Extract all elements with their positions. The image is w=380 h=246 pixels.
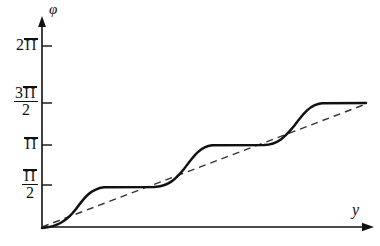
tick-label-pi: II — [0, 136, 38, 152]
x-axis — [42, 223, 374, 231]
fraction-numerator: II — [22, 168, 38, 185]
chart-canvas — [0, 0, 380, 246]
fraction-denominator: 2 — [14, 102, 38, 118]
tick-label-2pi-text: 2II — [16, 36, 38, 53]
pi-barred-glyph: II — [24, 37, 38, 53]
y-axis — [38, 16, 46, 229]
x-axis-label: y — [352, 202, 359, 218]
y-axis-ticks — [42, 46, 52, 185]
y-axis-label: φ — [49, 2, 57, 17]
x-axis-arrowhead — [362, 223, 374, 231]
linear-reference-line — [42, 104, 366, 227]
tick-label-2pi: 2II — [0, 37, 38, 53]
fraction-denominator: 2 — [22, 185, 38, 201]
pi-barred-glyph: II — [23, 85, 37, 101]
fraction-3pi-over-2: 3II 2 — [14, 85, 38, 119]
tick-label-pi-over-2: II 2 — [0, 168, 38, 202]
y-axis-arrowhead — [38, 16, 46, 27]
pi-barred-glyph: II — [24, 136, 38, 152]
pi-barred-glyph: II — [23, 168, 37, 184]
tick-label-3pi-over-2: 3II 2 — [0, 85, 38, 119]
fraction-numerator: 3II — [14, 85, 38, 102]
fraction-pi-over-2: II 2 — [22, 168, 38, 202]
phase-staircase-chart: φ y 2II 3II 2 II II 2 — [0, 0, 380, 246]
